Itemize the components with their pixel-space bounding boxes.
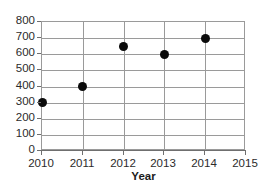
x-axis-tick <box>123 151 124 155</box>
data-point <box>119 42 128 51</box>
x-axis-tick <box>163 151 164 155</box>
y-axis-tick <box>37 37 41 38</box>
data-point <box>201 34 210 43</box>
x-axis-title: Year <box>41 170 246 183</box>
x-axis-tick-label: 2011 <box>59 157 105 170</box>
x-axis-tick <box>204 151 205 155</box>
x-axis-tick-label: 2015 <box>222 157 259 170</box>
x-axis-tick-label: 2013 <box>140 157 186 170</box>
x-axis-line <box>41 150 246 151</box>
y-axis-tick <box>37 102 41 103</box>
x-axis-tick <box>41 151 42 155</box>
y-axis-tick <box>37 118 41 119</box>
y-axis-tick-label: 500 <box>1 63 35 74</box>
y-axis-tick-label: 100 <box>1 128 35 139</box>
y-axis-tick-label: 800 <box>1 15 35 26</box>
y-axis-tick-label: 700 <box>1 31 35 42</box>
x-axis-tick-label: 2010 <box>18 157 64 170</box>
chart-title <box>0 0 259 2</box>
y-axis-tick <box>37 21 41 22</box>
gridline-vertical <box>164 22 165 149</box>
y-axis-tick-label: 200 <box>1 112 35 123</box>
data-point <box>160 50 169 59</box>
y-axis-tick-label: 300 <box>1 96 35 107</box>
gridline-horizontal <box>42 119 244 120</box>
gridline-horizontal <box>42 38 244 39</box>
y-axis-tick <box>37 86 41 87</box>
data-point <box>78 82 87 91</box>
y-axis-tick <box>37 134 41 135</box>
plot-area <box>41 21 245 150</box>
gridline-horizontal <box>42 135 244 136</box>
gridline-horizontal <box>42 70 244 71</box>
y-axis-tick-label: 0 <box>1 144 35 155</box>
y-axis-tick <box>37 69 41 70</box>
scatter-chart-figure: 0100200300400500600700800 Year 201020112… <box>0 0 259 187</box>
gridline-horizontal <box>42 87 244 88</box>
gridline-horizontal <box>42 54 244 55</box>
y-axis-tick-label: 600 <box>1 47 35 58</box>
x-axis-tick <box>82 151 83 155</box>
x-axis-tick-label: 2014 <box>181 157 227 170</box>
y-axis-tick-label: 400 <box>1 80 35 91</box>
y-axis-tick <box>37 53 41 54</box>
x-axis-tick <box>245 151 246 155</box>
gridline-horizontal <box>42 103 244 104</box>
